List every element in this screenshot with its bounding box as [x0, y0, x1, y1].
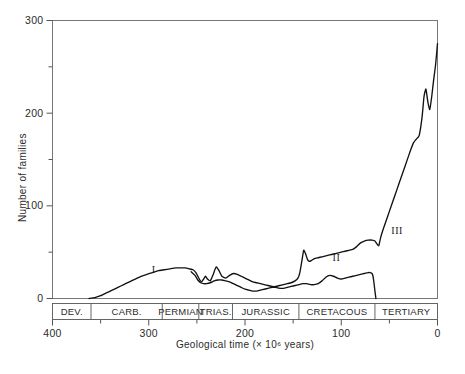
x-axis-title: Geological time (× 10⁶ years): [176, 339, 314, 350]
upper-curve: [89, 44, 437, 299]
period-label: CRETACOUS: [307, 306, 368, 317]
x-tick-label: 400: [43, 327, 61, 339]
period-label: DEV.: [61, 306, 83, 317]
x-tick-label: 100: [332, 327, 350, 339]
y-axis-title: Number of families: [17, 133, 28, 222]
period-label: CARB.: [112, 306, 142, 317]
y-tick-label: 300: [25, 14, 43, 26]
data-curves: [89, 44, 437, 299]
annotation-ii: II: [333, 252, 341, 263]
y-tick-label: 200: [25, 107, 43, 119]
annotation-i: I: [152, 264, 156, 275]
x-axis: 4003002001000: [43, 320, 440, 339]
plot-frame: [53, 21, 438, 299]
geological-period-bands: DEV.CARB.PERMIANTRIAS.JURASSICCRETACOUST…: [53, 304, 438, 320]
geological-diversity-chart: 0100200300 Number of families IIIIII DEV…: [0, 0, 465, 374]
period-label: PERMIAN: [158, 306, 203, 317]
chart-annotations: IIIIII: [152, 225, 403, 276]
period-label: TERTIARY: [382, 306, 431, 317]
y-axis: 0100200300: [25, 14, 52, 304]
y-tick-label: 0: [37, 292, 43, 304]
period-label: TRIAS.: [200, 306, 232, 317]
period-label: JURASSIC: [241, 306, 290, 317]
x-tick-label: 300: [140, 327, 158, 339]
annotation-iii: III: [391, 225, 403, 236]
x-tick-label: 200: [236, 327, 254, 339]
x-tick-label: 0: [434, 327, 440, 339]
chart-figure: 0100200300 Number of families IIIIII DEV…: [0, 0, 465, 374]
